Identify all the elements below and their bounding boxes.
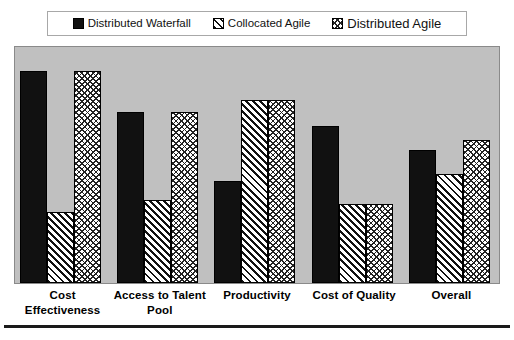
legend-item-distributed-waterfall: Distributed Waterfall <box>73 18 191 30</box>
x-axis-label: Access to TalentPool <box>111 288 208 318</box>
bar-crosshatch <box>268 100 295 283</box>
x-axis-label-line: Access to Talent <box>111 288 208 303</box>
bar-crosshatch <box>366 204 393 283</box>
bar-diagonal <box>339 204 366 283</box>
bar-group <box>209 47 306 283</box>
bar-crosshatch <box>74 71 101 283</box>
bar-diagonal <box>241 100 268 283</box>
bar-diagonal <box>47 212 74 283</box>
legend-swatch-diagonal-icon <box>213 18 224 29</box>
bottom-divider <box>4 325 510 328</box>
bar-diagonal <box>436 174 463 283</box>
x-axis-label-line: Pool <box>111 303 208 318</box>
bar-dotted-dark <box>20 71 47 283</box>
x-axis-category-labels: CostEffectivenessAccess to TalentPoolPro… <box>14 288 500 322</box>
x-axis-label: Productivity <box>208 288 305 303</box>
bars-layer <box>15 47 499 283</box>
bar-group <box>112 47 209 283</box>
x-axis-label: Overall <box>403 288 500 303</box>
x-axis-label-line: Productivity <box>208 288 305 303</box>
legend-label-distributed-agile: Distributed Agile <box>347 17 441 30</box>
legend-swatch-crosshatch-icon <box>332 18 343 29</box>
bar-dotted-dark <box>117 112 144 283</box>
chart-legend: Distributed Waterfall Collocated Agile D… <box>47 11 467 36</box>
bar-diagonal <box>144 200 171 283</box>
bar-group <box>404 47 501 283</box>
bar-crosshatch <box>171 112 198 283</box>
bar-crosshatch <box>463 140 490 283</box>
legend-swatch-dotted-dark-icon <box>73 18 84 29</box>
bar-dotted-dark <box>214 181 241 283</box>
legend-item-distributed-agile: Distributed Agile <box>332 17 441 30</box>
bar-group <box>15 47 112 283</box>
x-axis-label-line: Cost <box>14 288 111 303</box>
x-axis-label: CostEffectiveness <box>14 288 111 318</box>
x-axis-label-line: Cost of Quality <box>306 288 403 303</box>
legend-label-collocated-agile: Collocated Agile <box>228 18 310 30</box>
bar-group <box>307 47 404 283</box>
x-axis-label: Cost of Quality <box>306 288 403 303</box>
chart-plot-area <box>14 46 500 284</box>
legend-item-collocated-agile: Collocated Agile <box>213 18 310 30</box>
x-axis-label-line: Overall <box>403 288 500 303</box>
bar-dotted-dark <box>312 126 339 283</box>
bar-dotted-dark <box>409 150 436 283</box>
x-axis-label-line: Effectiveness <box>14 303 111 318</box>
legend-label-distributed-waterfall: Distributed Waterfall <box>88 18 191 30</box>
